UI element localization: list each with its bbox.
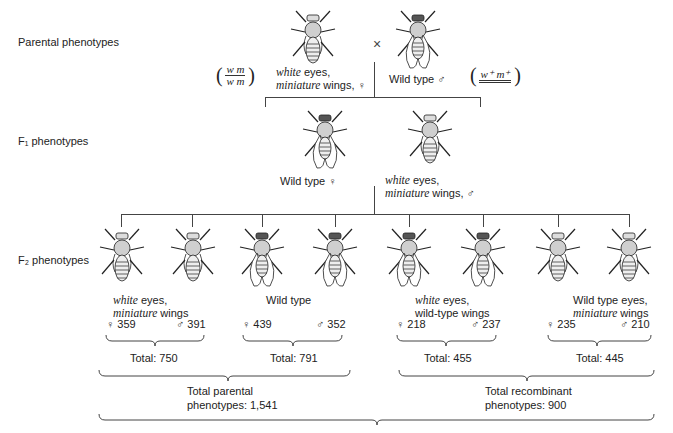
total-recombinant-line1: Total recombinant	[485, 385, 572, 397]
total-parental: Total parental phenotypes: 1,541	[187, 384, 278, 412]
total-parental-line1: Total parental	[187, 385, 253, 397]
total-g2: Total: 791	[270, 352, 318, 364]
total-g3: Total: 455	[424, 352, 472, 364]
total-parental-line2: phenotypes: 1,541	[187, 399, 278, 411]
total-g1: Total: 750	[130, 352, 178, 364]
total-recombinant-line2: phenotypes: 900	[485, 399, 566, 411]
total-g4: Total: 445	[576, 352, 624, 364]
brace-lines	[0, 0, 673, 433]
total-recombinant: Total recombinant phenotypes: 900	[485, 384, 572, 412]
